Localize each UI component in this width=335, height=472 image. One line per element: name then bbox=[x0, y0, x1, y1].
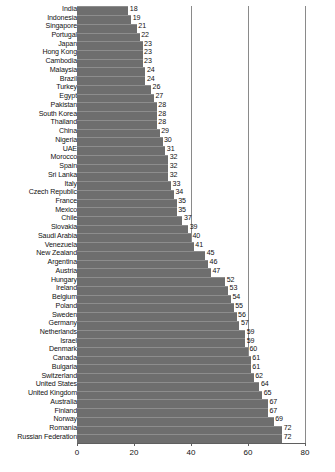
value-label: 32 bbox=[170, 171, 178, 179]
value-label: 52 bbox=[227, 276, 235, 284]
category-label: Portugal bbox=[51, 31, 77, 39]
bar-row: Denmark60 bbox=[0, 347, 335, 356]
category-label: Canada bbox=[53, 354, 77, 362]
category-label: France bbox=[56, 197, 77, 205]
category-label: Sri Lanka bbox=[48, 171, 77, 179]
category-label: Slovakia bbox=[51, 223, 77, 231]
bar-row: Australia67 bbox=[0, 399, 335, 408]
value-label: 24 bbox=[147, 75, 155, 83]
value-label: 32 bbox=[170, 162, 178, 170]
value-label: 30 bbox=[164, 136, 172, 144]
category-label: Russian Federation bbox=[17, 433, 77, 441]
category-label: Germany bbox=[49, 319, 77, 327]
value-label: 40 bbox=[193, 232, 201, 240]
value-label: 32 bbox=[170, 153, 178, 161]
bar-row: Singapore21 bbox=[0, 23, 335, 32]
value-label: 61 bbox=[252, 363, 260, 371]
value-label: 57 bbox=[241, 319, 249, 327]
category-label: Norway bbox=[54, 415, 77, 423]
bar-rows: India18Indonesia19Singapore21Portugal22J… bbox=[0, 6, 335, 443]
category-label: India bbox=[62, 5, 77, 13]
bar-row: Russian Federation72 bbox=[0, 434, 335, 443]
value-label: 72 bbox=[284, 424, 292, 432]
value-label: 28 bbox=[158, 101, 166, 109]
category-label: Japan bbox=[58, 40, 77, 48]
bar-row: Hungary52 bbox=[0, 277, 335, 286]
x-tick-60 bbox=[248, 443, 249, 446]
value-label: 35 bbox=[178, 197, 186, 205]
category-label: United Kingdom bbox=[28, 389, 77, 397]
value-label: 67 bbox=[269, 398, 277, 406]
category-label: Singapore bbox=[46, 22, 77, 30]
category-label: Chile bbox=[61, 214, 77, 222]
bar-row: Morocco32 bbox=[0, 154, 335, 163]
value-label: 62 bbox=[255, 372, 263, 380]
value-label: 59 bbox=[247, 337, 255, 345]
category-label: Mexico bbox=[55, 206, 77, 214]
value-label: 29 bbox=[161, 127, 169, 135]
value-label: 69 bbox=[275, 415, 283, 423]
x-tick-label: 60 bbox=[244, 448, 253, 458]
value-label: 27 bbox=[155, 92, 163, 100]
x-tick-0 bbox=[77, 443, 78, 446]
category-label: Malaysia bbox=[50, 66, 77, 74]
category-label: Bulgaria bbox=[52, 363, 77, 371]
value-label: 23 bbox=[144, 57, 152, 65]
value-label: 21 bbox=[138, 22, 146, 30]
value-label: 19 bbox=[133, 14, 141, 22]
value-label: 26 bbox=[153, 83, 161, 91]
value-label: 24 bbox=[147, 66, 155, 74]
x-tick-80 bbox=[305, 443, 306, 446]
value-label: 22 bbox=[141, 31, 149, 39]
category-label: China bbox=[59, 127, 77, 135]
x-tick-label: 0 bbox=[75, 448, 79, 458]
bar-row: Belgium54 bbox=[0, 294, 335, 303]
x-tick-label: 80 bbox=[301, 448, 310, 458]
bar-row: Turkey26 bbox=[0, 85, 335, 94]
value-label: 61 bbox=[252, 354, 260, 362]
category-label: Italy bbox=[64, 180, 77, 188]
category-label: Pakistan bbox=[51, 101, 77, 109]
category-label: Saudi Arabia bbox=[38, 232, 77, 240]
x-tick-label: 40 bbox=[187, 448, 196, 458]
category-label: Hong Kong bbox=[42, 48, 77, 56]
value-label: 35 bbox=[178, 206, 186, 214]
category-label: Venezuela bbox=[45, 241, 77, 249]
x-tick-label: 20 bbox=[130, 448, 139, 458]
category-label: Argentina bbox=[48, 258, 77, 266]
value-label: 60 bbox=[250, 345, 258, 353]
category-label: UAE bbox=[63, 145, 77, 153]
category-label: Romania bbox=[49, 424, 77, 432]
bar-row: Mexico35 bbox=[0, 207, 335, 216]
value-label: 64 bbox=[261, 380, 269, 388]
value-label: 31 bbox=[167, 145, 175, 153]
bar-row: Sri Lanka32 bbox=[0, 172, 335, 181]
bar-row: Canada61 bbox=[0, 355, 335, 364]
category-label: Poland bbox=[56, 302, 78, 310]
category-label: New Zealand bbox=[36, 249, 77, 257]
value-label: 55 bbox=[235, 302, 243, 310]
value-label: 23 bbox=[144, 40, 152, 48]
bar-row: France35 bbox=[0, 198, 335, 207]
category-label: Thailand bbox=[51, 118, 77, 126]
category-label: Netherlands bbox=[40, 328, 77, 336]
value-label: 67 bbox=[269, 407, 277, 415]
category-label: Belgium bbox=[52, 293, 77, 301]
category-label: Ireland bbox=[56, 284, 77, 292]
bar-row: Netherlands59 bbox=[0, 329, 335, 338]
category-label: Switzerland bbox=[41, 372, 77, 380]
value-label: 41 bbox=[195, 241, 203, 249]
category-label: Brazil bbox=[60, 75, 77, 83]
value-label: 47 bbox=[212, 267, 220, 275]
value-label: 65 bbox=[264, 389, 272, 397]
value-label: 23 bbox=[144, 48, 152, 56]
bar-row: Finland67 bbox=[0, 408, 335, 417]
value-label: 53 bbox=[230, 284, 238, 292]
value-label: 56 bbox=[238, 311, 246, 319]
bar-chart: India18Indonesia19Singapore21Portugal22J… bbox=[0, 0, 335, 472]
bar-row: Poland55 bbox=[0, 303, 335, 312]
value-label: 59 bbox=[247, 328, 255, 336]
value-label: 33 bbox=[173, 180, 181, 188]
value-label: 39 bbox=[190, 223, 198, 231]
bar-row: Ireland53 bbox=[0, 286, 335, 295]
